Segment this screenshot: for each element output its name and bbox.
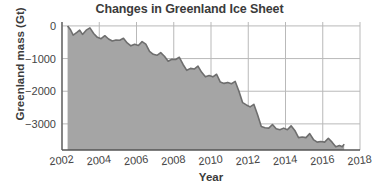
x-tick-label: 2008 [161, 153, 187, 167]
x-tick-label: 2012 [235, 153, 261, 167]
y-tick-label: −1000 [25, 53, 56, 65]
area-fill [68, 26, 345, 150]
plot-area: 0−1000−2000−3000 20022004200620082010201… [0, 0, 379, 189]
chart-figure: Changes in Greenland Ice Sheet Greenland… [0, 0, 379, 189]
y-tick-label: −3000 [25, 118, 56, 130]
x-tick-label: 2016 [310, 153, 336, 167]
x-tick-label: 2010 [198, 153, 224, 167]
x-tick-labels: 200220042006200820102012201420162018 [49, 153, 373, 167]
x-tick-label: 2004 [86, 153, 112, 167]
y-tick-label: 0 [50, 20, 56, 32]
x-tick-label: 2018 [347, 153, 373, 167]
y-tick-labels: 0−1000−2000−3000 [25, 20, 56, 130]
x-tick-label: 2002 [49, 153, 75, 167]
x-tick-label: 2006 [123, 153, 149, 167]
y-tick-label: −2000 [25, 85, 56, 97]
area-series-greenland-mass [68, 26, 345, 150]
x-tick-label: 2014 [272, 153, 298, 167]
